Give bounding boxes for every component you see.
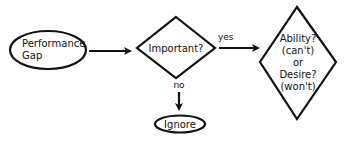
flowchart-canvas: Performance Gap Important? yes Ability? … (0, 0, 346, 141)
node-performance-gap: Performance Gap (10, 31, 86, 69)
node-label-line: Ability? (280, 33, 317, 44)
node-label-line: Performance (22, 38, 85, 49)
node-label-line: Gap (22, 50, 42, 61)
edge-label-no: no (173, 80, 185, 90)
node-label-line: Desire? (279, 69, 316, 80)
node-label-line: (can't) (282, 45, 315, 56)
node-label-line: Ignore (164, 119, 196, 130)
node-important-decision: Important? (137, 17, 215, 78)
node-label-line: Important? (149, 43, 204, 54)
edge-label-yes: yes (218, 32, 234, 42)
node-ignore: Ignore (155, 116, 205, 133)
node-label-line: (won't) (280, 81, 315, 92)
node-ability-or-desire-decision: Ability? (can't) or Desire? (won't) (260, 7, 336, 119)
edge-important-yes: yes (218, 32, 258, 48)
node-label-line: or (293, 57, 304, 68)
edge-important-no: no (173, 80, 185, 109)
